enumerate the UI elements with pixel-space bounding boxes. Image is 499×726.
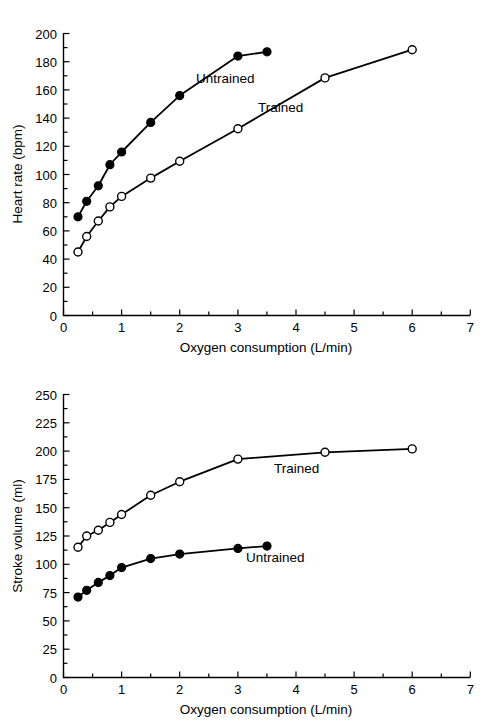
y-tick-label: 150 [35, 501, 57, 516]
y-tick-label: 75 [43, 586, 57, 601]
axes-heart-rate [64, 33, 471, 316]
series-annotation-trained: Trained [274, 461, 319, 476]
x-tick-label: 2 [176, 320, 183, 335]
data-point [94, 578, 102, 586]
y-tick-label: 25 [43, 642, 57, 657]
y-tick-label: 100 [35, 557, 57, 572]
y-tick-label: 50 [43, 614, 57, 629]
x-tick-label: 2 [176, 682, 183, 697]
data-point [118, 511, 126, 519]
data-point [176, 550, 184, 558]
axes-stroke-volume [64, 394, 471, 678]
x-tick-label: 6 [409, 682, 416, 697]
x-tick-label: 1 [118, 320, 125, 335]
data-point [106, 203, 114, 211]
data-point [94, 526, 102, 534]
chart-heart-rate: 0 1 2 3 4 5 6 7 0 20 40 60 80 100 120 14… [0, 0, 499, 363]
chart-stroke-volume: 0 1 2 3 4 5 6 7 0 25 50 75 100 125 150 1… [0, 363, 499, 726]
data-point [83, 233, 91, 241]
x-tick-labels: 0 1 2 3 4 5 6 7 [60, 682, 474, 697]
y-tick-label: 175 [35, 472, 57, 487]
y-axis-title: Heart rate (bpm) [10, 124, 25, 223]
y-tick-label: 60 [43, 224, 57, 239]
data-point [176, 157, 184, 165]
data-point [83, 197, 91, 205]
data-point [74, 593, 82, 601]
data-point [74, 248, 82, 256]
y-tick-marks [64, 395, 70, 678]
data-point [83, 532, 91, 540]
y-tick-label: 125 [35, 529, 57, 544]
x-tick-marks [64, 672, 471, 678]
data-point [74, 213, 82, 221]
y-tick-marks [64, 34, 70, 316]
data-point [106, 518, 114, 526]
y-axis-title: Stroke volume (ml) [10, 479, 25, 592]
y-tick-label: 140 [35, 111, 57, 126]
x-tick-marks [64, 310, 471, 316]
x-tick-label: 3 [234, 320, 241, 335]
data-point [408, 46, 416, 54]
x-axis-title: Oxygen consumption (L/min) [180, 702, 353, 717]
data-point [263, 542, 271, 550]
y-tick-label: 250 [35, 388, 57, 403]
series-line [78, 546, 267, 597]
series-trained-stroke-volume [74, 445, 416, 551]
x-tick-label: 4 [292, 320, 299, 335]
data-point [147, 555, 155, 563]
data-point [234, 52, 242, 60]
data-point [106, 572, 114, 580]
data-point [83, 586, 91, 594]
y-tick-label: 40 [43, 252, 57, 267]
y-tick-label: 100 [35, 168, 57, 183]
series-annotation-trained: Trained [258, 100, 303, 115]
stroke-volume-plot: 0 1 2 3 4 5 6 7 0 25 50 75 100 125 150 1… [0, 363, 499, 726]
y-tick-labels: 0 20 40 60 80 100 120 140 160 180 200 [35, 27, 57, 324]
data-point [147, 174, 155, 182]
x-tick-label: 0 [60, 320, 67, 335]
x-tick-label: 3 [234, 682, 241, 697]
axis-lines [64, 394, 471, 678]
axis-lines [64, 33, 471, 316]
y-tick-label: 200 [35, 27, 57, 42]
series-line [78, 449, 412, 547]
data-point [147, 118, 155, 126]
data-point [118, 564, 126, 572]
y-tick-label: 0 [50, 309, 57, 324]
y-tick-label: 0 [50, 671, 57, 686]
data-point [321, 74, 329, 82]
y-tick-label: 200 [35, 444, 57, 459]
x-tick-label: 4 [292, 682, 299, 697]
data-point [321, 448, 329, 456]
data-point [234, 455, 242, 463]
data-point [176, 92, 184, 100]
x-tick-label: 0 [60, 682, 67, 697]
x-tick-labels: 0 1 2 3 4 5 6 7 [60, 320, 474, 335]
series-untrained-stroke-volume [74, 542, 271, 601]
data-point [74, 543, 82, 551]
x-tick-label: 1 [118, 682, 125, 697]
y-tick-labels: 0 25 50 75 100 125 150 175 200 225 250 [35, 388, 57, 686]
y-tick-label: 225 [35, 416, 57, 431]
x-tick-label: 7 [467, 682, 474, 697]
data-point [263, 48, 271, 56]
series-annotation-untrained: Untrained [196, 71, 255, 86]
y-tick-label: 20 [43, 280, 57, 295]
x-axis-title: Oxygen consumption (L/min) [180, 340, 353, 355]
x-tick-label: 6 [409, 320, 416, 335]
x-tick-label: 5 [350, 320, 357, 335]
data-point [118, 148, 126, 156]
data-point [118, 192, 126, 200]
data-point [234, 544, 242, 552]
data-point [176, 478, 184, 486]
x-tick-label: 7 [467, 320, 474, 335]
data-point [94, 217, 102, 225]
heart-rate-plot: 0 1 2 3 4 5 6 7 0 20 40 60 80 100 120 14… [0, 0, 499, 363]
y-tick-label: 120 [35, 139, 57, 154]
data-point [234, 125, 242, 133]
data-point [106, 161, 114, 169]
data-point [408, 445, 416, 453]
data-point [94, 182, 102, 190]
y-tick-label: 160 [35, 83, 57, 98]
data-point [147, 491, 155, 499]
